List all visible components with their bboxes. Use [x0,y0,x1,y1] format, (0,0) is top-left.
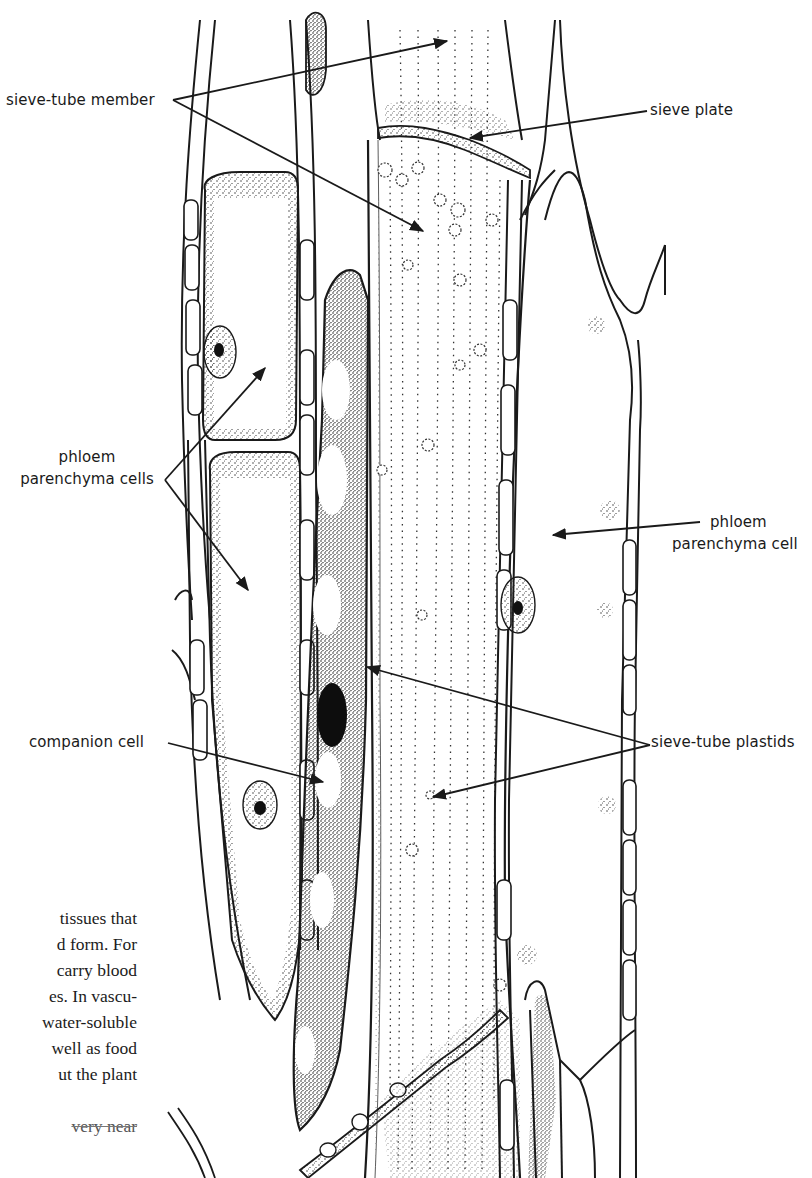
label-phloem-parenchyma-cell: phloem parenchyma cell [672,511,798,555]
body-text-line: ut the plant [0,1061,137,1087]
body-text-line: es. In vascu- [0,983,137,1009]
body-text-line: tissues that [0,905,137,931]
left-parenchyma-lower [210,452,302,1020]
body-text-line: d form. For [0,931,137,957]
body-text-line: very near [0,1113,137,1139]
body-text-line: well as food [0,1035,137,1061]
label-phloem-parenchyma-cell-line2: parenchyma cell [672,533,798,555]
left-parenchyma-upper [203,172,298,440]
label-phloem-parenchyma-cell-line1: phloem [672,511,798,533]
label-phloem-parenchyma-cells-line1: phloem [8,446,166,468]
body-text-fragment: tissues that d form. For carry blood es.… [0,905,137,1139]
body-text-line [0,1087,137,1113]
label-sieve-tube-member: sieve-tube member [6,89,155,111]
bottom-left-strand [168,1108,215,1178]
label-companion-cell: companion cell [29,731,144,753]
companion-cell-nucleus [317,683,347,747]
label-sieve-tube-plastids: sieve-tube plastids [651,731,795,753]
body-text-line: carry blood [0,957,137,983]
label-phloem-parenchyma-cells: phloem parenchyma cells [8,446,166,490]
body-text-line: water-soluble [0,1009,137,1035]
wall-granules [517,316,620,965]
top-dense-cell [306,13,326,95]
label-phloem-parenchyma-cells-line2: parenchyma cells [8,468,166,490]
label-sieve-plate: sieve plate [650,99,733,121]
right-parenchyma-nucleus [501,577,535,633]
